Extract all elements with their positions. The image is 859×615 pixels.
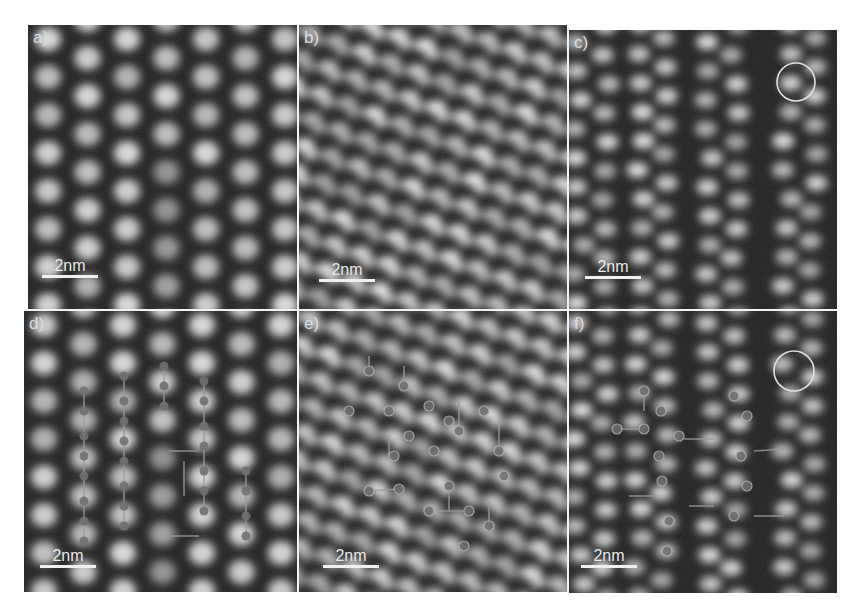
scale-bar-line <box>585 276 641 279</box>
scale-bar-label: 2nm <box>323 547 379 564</box>
divider-horizontal <box>24 309 838 311</box>
panel-label-a: a) <box>33 28 48 48</box>
panel-d: d) 2nm <box>24 311 297 592</box>
scale-bar-label: 2nm <box>585 258 641 275</box>
scale-bar-line <box>581 565 637 568</box>
scale-bar-line <box>323 565 379 568</box>
scale-bar-d: 2nm <box>40 547 96 568</box>
scale-bar-e: 2nm <box>323 547 379 568</box>
panel-label-b: b) <box>304 28 319 48</box>
panel-label-e: e) <box>304 314 319 334</box>
scale-bar-line <box>319 279 375 282</box>
figure-caption <box>4 600 854 615</box>
scale-bar-label: 2nm <box>319 261 375 278</box>
panel-f: f) 2nm <box>569 311 837 593</box>
scale-bar-line <box>40 565 96 568</box>
panel-b: b) 2nm <box>299 25 567 309</box>
panel-e: e) 2nm <box>299 311 567 592</box>
panel-label-f: f) <box>574 314 584 334</box>
microscopy-figure: a) 2nm b) 2nm c) 2nm d) 2nm e) <box>0 0 859 615</box>
panel-label-c: c) <box>574 33 588 53</box>
scale-bar-label: 2nm <box>581 547 637 564</box>
scale-bar-a: 2nm <box>42 257 98 278</box>
scale-bar-line <box>42 275 98 278</box>
panel-a: a) 2nm <box>28 25 297 309</box>
scale-bar-label: 2nm <box>42 257 98 274</box>
scale-bar-label: 2nm <box>40 547 96 564</box>
scale-bar-c: 2nm <box>585 258 641 279</box>
panel-label-d: d) <box>29 314 44 334</box>
scale-bar-b: 2nm <box>319 261 375 282</box>
panel-c: c) 2nm <box>569 30 837 309</box>
scale-bar-f: 2nm <box>581 547 637 568</box>
